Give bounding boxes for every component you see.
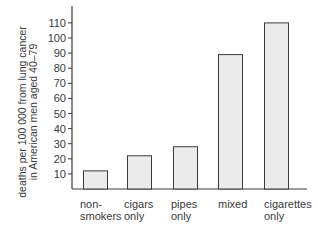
bar-cigars-only: [128, 156, 152, 189]
y-tick-label: 90: [54, 47, 66, 59]
y-axis-label-line-2: in American men aged 40–79: [27, 44, 39, 181]
bar-pipes-only: [174, 147, 198, 189]
y-tick-label: 30: [54, 138, 66, 150]
y-tick-label: 50: [54, 108, 66, 120]
bar-mixed: [219, 55, 243, 189]
x-tick-label: smokers: [80, 210, 122, 222]
y-tick-label: 80: [54, 62, 66, 74]
y-tick-label: 20: [54, 153, 66, 165]
x-tick-label: pipes: [171, 198, 198, 210]
y-ticks: 102030405060708090100110: [48, 17, 72, 180]
x-tick-label: only: [171, 210, 192, 222]
y-tick-label: 70: [54, 77, 66, 89]
x-tick-label: non-: [80, 198, 102, 210]
x-tick-label: mixed: [218, 198, 247, 210]
x-tick-label: cigarettes: [264, 198, 312, 210]
bar-cigarettes-only: [265, 23, 289, 189]
bars: [84, 23, 289, 189]
bar-chart: deaths per 100 000 from lung cancer in A…: [0, 0, 318, 233]
y-tick-label: 100: [48, 32, 66, 44]
y-tick-label: 40: [54, 123, 66, 135]
y-tick-label: 10: [54, 168, 66, 180]
bar-non-smokers: [84, 171, 108, 189]
y-tick-label: 60: [54, 92, 66, 104]
x-tick-labels: non-smokerscigarsonlypipesonlymixedcigar…: [80, 198, 312, 222]
x-tick-label: cigars: [124, 198, 154, 210]
y-axis-label: deaths per 100 000 from lung cancer in A…: [16, 26, 39, 198]
x-tick-label: only: [264, 210, 285, 222]
y-tick-label: 110: [48, 17, 66, 29]
x-tick-label: only: [124, 210, 145, 222]
